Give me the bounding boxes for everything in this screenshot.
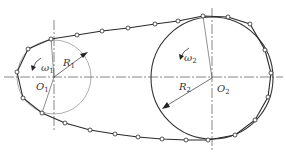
chain-link-pin [113, 132, 117, 136]
chain-link-pin [266, 95, 270, 99]
chain-link-pin [40, 111, 44, 115]
chain-link-pin [100, 29, 104, 33]
chain-link-pin [248, 22, 252, 26]
chain-drive-diagram: ω1 R1 O1 ω2 R2 O2 [0, 0, 286, 155]
chain-link-pin [126, 26, 130, 30]
chain-link-pin [184, 138, 188, 142]
chain-path [17, 16, 271, 140]
chain-link-pin [63, 121, 67, 125]
chain-link-pin [75, 33, 79, 37]
omega1-label: ω1 [41, 62, 54, 75]
chain-link-pin [233, 133, 237, 137]
chain-link-pin [226, 15, 230, 19]
r1-label: R1 [62, 57, 75, 70]
o2-label: O2 [217, 83, 230, 96]
chain-link-pin [253, 118, 257, 122]
chain-link-pin [15, 70, 19, 74]
r2-label: R2 [178, 81, 191, 94]
chain-link-pin [49, 37, 53, 41]
chain-link-pin [26, 47, 30, 51]
chain-link-pin [160, 137, 164, 141]
omega2-label: ω2 [184, 52, 197, 65]
chain-link-pin [201, 14, 205, 18]
chain-link-pin [21, 96, 25, 100]
chain-link-pin [153, 22, 157, 26]
o1-label: O1 [36, 81, 49, 94]
chain-link-pin [206, 138, 210, 142]
chain-link-pin [263, 48, 267, 52]
chain-link-pin [88, 128, 92, 132]
chain-link-pin [269, 71, 273, 75]
chain-link-pin [176, 19, 180, 23]
center-lines [4, 8, 283, 150]
chain-link-pin [136, 135, 140, 139]
